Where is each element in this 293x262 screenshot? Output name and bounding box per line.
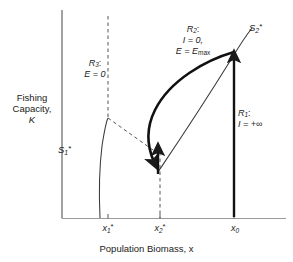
region-r1-id: R1: [238,108,251,118]
region-r1-line2: I = +∞ [238,119,262,129]
region-r3-line2: E = 0 [84,69,105,79]
x-tick-label-x1-star: x1* [95,222,121,234]
y-axis-title-line1: Fishing [17,92,48,103]
region-r2-line2: I = 0, [183,35,203,45]
y-axis-title-line3: K [29,114,35,125]
region-label-r3: R3: E = 0 [62,58,128,80]
curve-label-s1-star: S1* [58,144,71,157]
y-axis-title-line2: Capacity, [13,103,52,114]
phase-diagram-figure: Fishing Capacity, K Population Biomass, … [0,0,293,262]
x-tick-label-x0: x0 [222,222,248,234]
dashed-boundary-diagonal [108,118,160,155]
curve-s1-star [99,118,108,218]
x-axis-title: Population Biomass, x [0,243,293,254]
region-r2-id: R2: [187,24,200,34]
region-r3-id: R3: [89,58,102,68]
x-axis-title-text: Population Biomass, x [100,243,194,254]
region-label-r2: R2: I = 0, E = Emax [148,24,238,57]
trajectory-upper-arrow [149,52,235,162]
region-r2-line3: E = Emax [176,46,211,56]
region-label-r1: R1: I = +∞ [238,108,290,130]
y-axis-title: Fishing Capacity, K [6,92,58,126]
curve-label-s2-star: S2* [249,22,262,35]
x-tick-label-x2-star: x2* [147,222,173,234]
